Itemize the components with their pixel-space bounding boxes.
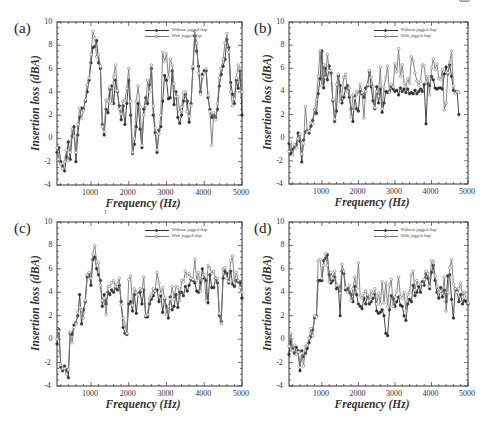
open-circle-marker-icon bbox=[374, 233, 398, 239]
y-tick-label: 0 bbox=[281, 334, 285, 343]
y-tick-label: 0 bbox=[281, 133, 285, 142]
y-axis-label: Insertion loss (dBA) bbox=[29, 43, 41, 163]
x-tick-label: 4000 bbox=[422, 187, 438, 196]
x-tick-label: 2000 bbox=[349, 187, 365, 196]
x-tick-label: 5000 bbox=[459, 389, 475, 398]
y-tick-label: 0 bbox=[49, 334, 53, 343]
y-axis-label: Insertion loss (dBA) bbox=[261, 243, 273, 363]
y-tick-label: -4 bbox=[276, 179, 283, 188]
y-tick-label: 2 bbox=[281, 311, 285, 320]
open-circle-marker-icon bbox=[374, 33, 398, 39]
legend: Without jagged flapWith jagged flap bbox=[145, 27, 208, 39]
x-tick-label: 3000 bbox=[386, 187, 402, 196]
x-tick-label: 1000 bbox=[313, 187, 329, 196]
legend-label: With jagged flap bbox=[172, 33, 202, 39]
x-tick-label: 4000 bbox=[195, 389, 211, 398]
x-tick-label: 2000 bbox=[349, 389, 365, 398]
y-axis-label: Insertion loss (dBA) bbox=[261, 42, 273, 162]
x-tick-label: 4000 bbox=[195, 188, 211, 197]
panel-c: (c)10002000300040005000-4-20246810Freque… bbox=[0, 200, 246, 412]
legend-label: With jagged flap bbox=[401, 33, 431, 39]
x-tick-label: 1000 bbox=[82, 188, 98, 197]
x-tick-label: 2000 bbox=[120, 188, 136, 197]
legend-label: With jagged flap bbox=[401, 233, 431, 239]
y-tick-label: 10 bbox=[276, 17, 284, 26]
x-tick-label: 5000 bbox=[459, 187, 475, 196]
y-tick-label: 4 bbox=[281, 287, 285, 296]
y-tick-label: 10 bbox=[44, 217, 52, 226]
x-tick-label: 2000 bbox=[120, 389, 136, 398]
y-tick-label: -4 bbox=[44, 180, 51, 189]
x-axis-label: Frequency (Hz) bbox=[335, 398, 410, 410]
series-with-jagged-flap bbox=[289, 49, 459, 156]
legend-entry: With jagged flap bbox=[145, 233, 208, 239]
y-tick-label: -4 bbox=[276, 381, 283, 390]
legend-entry: With jagged flap bbox=[374, 233, 437, 239]
y-tick-label: -2 bbox=[44, 358, 51, 367]
y-tick-label: 6 bbox=[281, 63, 285, 72]
y-tick-label: 10 bbox=[44, 17, 52, 26]
y-tick-label: 0 bbox=[49, 133, 53, 142]
y-axis-label: Insertion loss (dBA) bbox=[29, 243, 41, 363]
y-tick-label: 8 bbox=[49, 40, 53, 49]
y-tick-label: 4 bbox=[49, 87, 53, 96]
x-axis-label: Frequency (Hz) bbox=[106, 398, 181, 410]
x-tick-label: 3000 bbox=[386, 389, 402, 398]
panel-d: (d)10002000300040005000-4-20246810Freque… bbox=[232, 200, 478, 412]
x-tick-label: 3000 bbox=[157, 389, 173, 398]
stray-mark: ᵀ bbox=[104, 209, 107, 218]
y-tick-label: 8 bbox=[281, 40, 285, 49]
series-with-jagged-flap bbox=[289, 254, 468, 368]
x-tick-label: 1000 bbox=[313, 389, 329, 398]
y-tick-label: -2 bbox=[276, 358, 283, 367]
y-tick-label: 6 bbox=[49, 264, 53, 273]
open-circle-marker-icon bbox=[145, 233, 169, 239]
y-tick-label: -4 bbox=[44, 381, 51, 390]
y-tick-label: 2 bbox=[281, 110, 285, 119]
x-tick-label: 3000 bbox=[157, 188, 173, 197]
legend-label: With jagged flap bbox=[172, 233, 202, 239]
y-tick-label: 2 bbox=[49, 311, 53, 320]
y-tick-label: 2 bbox=[49, 110, 53, 119]
open-circle-marker-icon bbox=[145, 33, 169, 39]
legend: Without jagged flapWith jagged flap bbox=[145, 227, 208, 239]
x-tick-label: 4000 bbox=[422, 389, 438, 398]
y-tick-label: 4 bbox=[49, 287, 53, 296]
legend: Without jagged flapWith jagged flap bbox=[374, 27, 437, 39]
y-tick-label: -2 bbox=[276, 156, 283, 165]
y-tick-label: 8 bbox=[49, 240, 53, 249]
legend-entry: With jagged flap bbox=[145, 33, 208, 39]
y-tick-label: 10 bbox=[276, 217, 284, 226]
y-tick-label: 6 bbox=[281, 264, 285, 273]
axes-frame bbox=[289, 222, 468, 386]
y-tick-label: 4 bbox=[281, 86, 285, 95]
y-tick-label: -2 bbox=[44, 157, 51, 166]
panel-b: (b)10002000300040005000-4-20246810Freque… bbox=[232, 0, 478, 212]
legend: Without jagged flapWith jagged flap bbox=[374, 227, 437, 239]
panel-a: (a)10002000300040005000-4-20246810Freque… bbox=[0, 0, 246, 212]
x-tick-label: 1000 bbox=[82, 389, 98, 398]
legend-entry: With jagged flap bbox=[374, 33, 437, 39]
y-tick-label: 8 bbox=[281, 240, 285, 249]
y-tick-label: 6 bbox=[49, 64, 53, 73]
